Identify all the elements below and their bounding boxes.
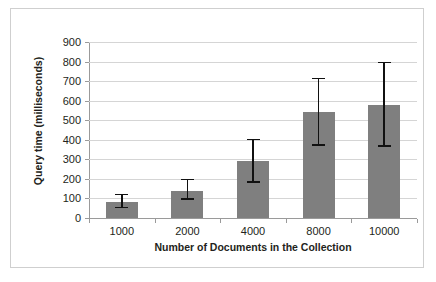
y-tick-300 (85, 159, 89, 160)
error-bar-cap-upper (378, 62, 391, 64)
error-bar-line (318, 78, 320, 146)
chart-frame: 0100200300400500600700800900 Query time … (10, 8, 424, 268)
y-tick-200 (85, 179, 89, 180)
y-tick-800 (85, 62, 89, 63)
y-tick-label-400: 400 (63, 134, 81, 145)
y-tick-label-0: 0 (75, 213, 81, 224)
error-bar-cap-lower (312, 144, 325, 146)
x-tick-1000 (155, 219, 156, 223)
error-bar-2000 (171, 179, 203, 200)
y-tick-label-100: 100 (63, 193, 81, 204)
chart-figure: 0100200300400500600700800900 Query time … (0, 0, 436, 282)
y-tick-label-900: 900 (63, 37, 81, 48)
x-tick-label-4000: 4000 (241, 225, 265, 237)
error-bar-cap-upper (115, 194, 128, 196)
x-tick-8000 (351, 219, 352, 223)
x-axis-line (89, 218, 417, 219)
error-bar-cap-upper (247, 139, 260, 141)
x-tick-10000 (417, 219, 418, 223)
y-tick-label-700: 700 (63, 76, 81, 87)
error-bar-1000 (106, 194, 138, 209)
y-tick-label-800: 800 (63, 56, 81, 67)
y-tick-700 (85, 81, 89, 82)
error-bar-cap-lower (181, 198, 194, 200)
x-tick-label-10000: 10000 (369, 225, 400, 237)
y-tick-label-200: 200 (63, 173, 81, 184)
plot-area (89, 42, 417, 218)
x-axis-title: Number of Documents in the Collection (89, 241, 417, 253)
y-tick-500 (85, 120, 89, 121)
y-tick-label-600: 600 (63, 95, 81, 106)
y-tick-400 (85, 140, 89, 141)
x-tick-label-1000: 1000 (110, 225, 134, 237)
y-tick-0 (85, 218, 89, 219)
error-bar-4000 (237, 139, 269, 183)
y-axis-title: Query time (milliseconds) (32, 41, 44, 201)
y-tick-100 (85, 198, 89, 199)
error-bar-line (187, 179, 189, 200)
y-tick-label-300: 300 (63, 154, 81, 165)
error-bar-line (383, 62, 385, 147)
error-bar-10000 (368, 62, 400, 147)
gridline-900 (89, 42, 417, 43)
error-bar-8000 (303, 78, 335, 146)
y-tick-600 (85, 101, 89, 102)
x-tick-2000 (220, 219, 221, 223)
error-bar-cap-lower (378, 145, 391, 147)
error-bar-cap-lower (115, 207, 128, 209)
error-bar-cap-upper (181, 179, 194, 181)
y-tick-900 (85, 42, 89, 43)
y-axis-tick-labels: 0100200300400500600700800900 (51, 9, 81, 282)
error-bar-line (252, 139, 254, 183)
x-tick-origin (89, 219, 90, 223)
x-tick-4000 (286, 219, 287, 223)
error-bar-cap-upper (312, 78, 325, 80)
y-tick-label-500: 500 (63, 115, 81, 126)
x-tick-label-8000: 8000 (306, 225, 330, 237)
error-bar-cap-lower (247, 181, 260, 183)
x-tick-label-2000: 2000 (175, 225, 199, 237)
